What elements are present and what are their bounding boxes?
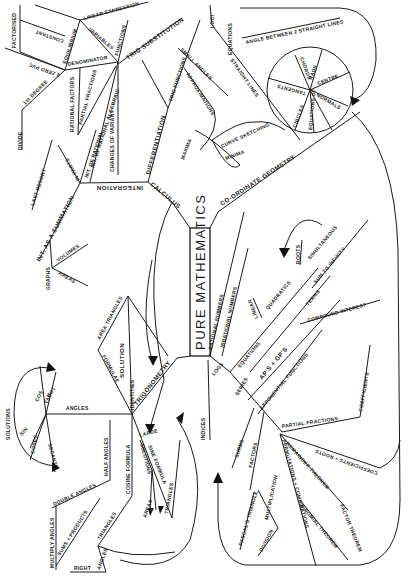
label-minima: MINIMA [224,148,245,161]
label-solution: SOLUTION [118,343,125,378]
label-factorised: FACTORISED [11,13,17,48]
label-loci: LOCI [209,15,215,28]
label-curve-sketching: CURVE SKETCHING [220,121,270,149]
label-terms: TERMS [304,288,321,307]
label-triangles: TRIANGLES [96,510,118,540]
label-angle-between: ANGLE BETWEEN 2 STRAIGHT LINES [245,18,345,45]
label-graphs: GRAPHS [45,266,51,290]
label-right: RIGHT [74,565,91,571]
label-double-angles: DOUBLE ANGLES [52,481,98,506]
label-factor-theorem: FACTOR THEOREM [339,503,364,553]
label-area-triangles: AREA TRIANGLES [96,295,124,341]
label-secant: SECANT [47,443,59,466]
label-functions: FUNCTIONS [113,24,127,57]
label-angles-right: ANGLES [95,547,109,571]
label-partial-fractions-alg: PARTIAL FRACTIONS [77,68,98,125]
label-sin: SIN [18,426,29,437]
label-rational-factors: RATIONAL FACTORS [69,76,75,132]
label-cot: COT [46,386,57,399]
label-trig-functions: TRIG FUNCTIONS [167,56,187,103]
label-coefficients: COEFFICIENTS [357,371,370,412]
central-node: PURE MATHEMATICS [190,194,210,356]
label-pascals-triangle: PASCAL'S TRIANGLE [237,490,259,547]
label-tangents: TANGENTS [276,83,306,97]
label-solutions-trig: SOLUTIONS [5,408,11,440]
label-calculus: CALCULUS [149,180,182,209]
label-2-zero: 2 ZERO PVC [27,62,60,79]
label-cosec: COSEC [29,434,38,454]
label-last-resort: LAST RESORT [29,168,47,207]
mind-map-canvas: PURE MATHEMATICS CALCULUS INTEGRATION DI… [0,0,412,578]
label-int-rational-algebraic: INT. OF RATIONAL ALGEBRAIC [89,88,120,169]
label-linear-expression: LINEAR EXPRESSION [83,0,140,21]
label-sums-products: SUMS + PRODUCTS [56,508,89,556]
label-logs: LOGS [210,361,225,377]
label-denominator: DENOMINATOR [67,54,108,67]
label-equations: EQUATIONS [236,340,261,369]
label-cos: COS [33,389,44,403]
label-cosine-formula: COSINE FORMULA [125,444,131,494]
label-angles: ANGLES [66,405,89,411]
label-division: DIVISION [258,528,275,552]
label-volumes: VOLUMES [55,242,81,263]
label-constant: CONSTANT [34,29,64,45]
label-indices: INDICES [200,417,206,440]
label-quadratics: QUADRATICS [264,279,292,311]
label-circles: CIRCLES [291,103,305,128]
title-label: PURE MATHEMATICS [193,194,208,350]
label-equations-cg: EQUATIONS [227,23,233,55]
label-surds: SURDS [233,438,245,458]
label-linear: LINEAR [246,298,259,319]
label-half-angles: HALF ANGLES [103,437,109,476]
label-1st-degree: 1st DEGREE [21,78,49,106]
label-straight-lines: STRAIGHT LINES [229,57,260,98]
label-in-parts: IN PARTS [64,157,81,183]
label-identities: IDENTITIES [129,379,135,410]
label-changes-of-variant: CHANGES OF VARIANT [109,110,115,172]
label-variables: VARIABLES [87,26,115,51]
label-roots: ROOTS [295,244,301,264]
label-multiply-angles: MULTIPLY ANGLES [49,517,55,568]
label-maxima: MAXIMA [179,137,192,160]
label-compound-interest: COMPOUND INTEREST [307,301,367,323]
label-centre: CENTRE [316,73,339,86]
label-coefficients-roots: COEFFICIENTS + ROOTS [314,448,379,476]
label-coordinate-geometry: CO-ORDINATE GEOMETRY [219,153,297,207]
label-areas: AREAS [58,270,78,285]
mind-map-diagram: PURE MATHEMATICS CALCULUS INTEGRATION DI… [0,0,412,578]
label-differentiation: DIFFERENTIATION [144,114,167,175]
label-integration: INTEGRATION [96,185,143,192]
label-trigonometry: TRIGONOMETRY [132,359,172,407]
